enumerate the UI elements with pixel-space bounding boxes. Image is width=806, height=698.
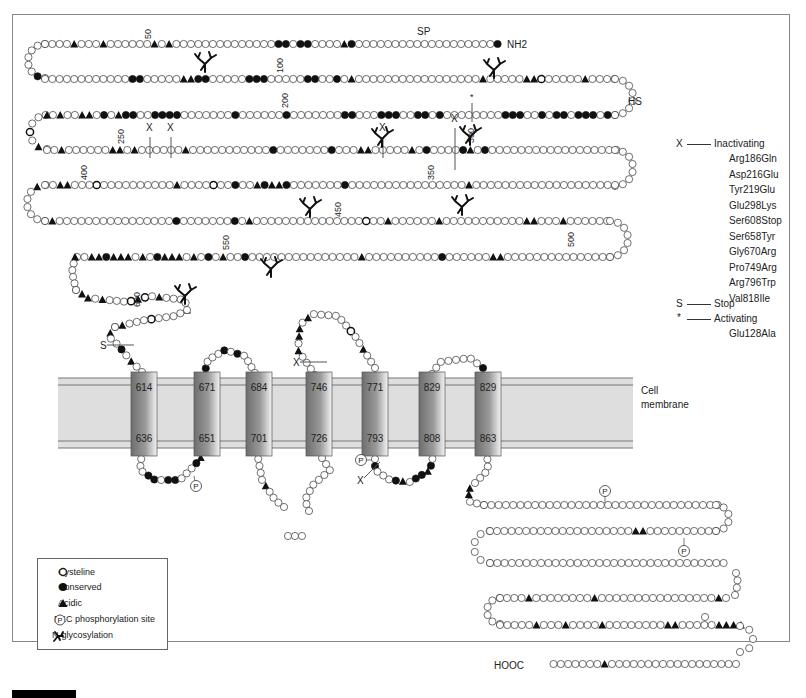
conserved-residue xyxy=(328,146,335,153)
inactivating-marker: X xyxy=(357,475,364,486)
residue xyxy=(501,217,508,224)
conserved-residue xyxy=(118,346,125,353)
conserved-residue xyxy=(241,253,248,260)
tm-helix-5: 771793 xyxy=(362,372,388,456)
residue xyxy=(621,621,628,628)
acidic-residue xyxy=(533,621,541,629)
residue xyxy=(319,40,326,47)
residue xyxy=(370,75,377,82)
residue xyxy=(326,75,333,82)
residue xyxy=(253,40,260,47)
svg-text:P: P xyxy=(57,616,62,625)
residue xyxy=(625,527,632,534)
residue xyxy=(392,75,399,82)
residue xyxy=(290,40,297,47)
residue xyxy=(312,217,319,224)
residue xyxy=(290,181,297,188)
acidic-residue xyxy=(295,332,303,340)
residue xyxy=(559,527,566,534)
svg-text:P: P xyxy=(358,456,363,465)
residue xyxy=(399,40,406,47)
conserved-residue xyxy=(439,253,446,260)
residue xyxy=(336,253,343,260)
residue xyxy=(356,181,363,188)
residue xyxy=(188,111,195,118)
cysteine-residue xyxy=(148,316,155,323)
residue xyxy=(318,311,325,318)
residue xyxy=(144,75,151,82)
residue xyxy=(443,40,450,47)
residue xyxy=(625,559,632,566)
residue xyxy=(63,40,70,47)
residue xyxy=(144,217,151,224)
acidic-residue xyxy=(182,146,190,154)
residue xyxy=(163,314,170,321)
residue xyxy=(41,181,48,188)
residue xyxy=(132,253,139,260)
residue xyxy=(333,217,340,224)
residue xyxy=(557,660,564,667)
residue-number: 350 xyxy=(426,165,436,180)
residue xyxy=(344,253,351,260)
residue xyxy=(474,146,481,153)
acidic-residue xyxy=(115,111,123,119)
residue xyxy=(81,253,88,260)
residue xyxy=(526,253,533,260)
residue xyxy=(310,481,317,488)
residue xyxy=(268,40,275,47)
residue xyxy=(561,501,568,508)
residue xyxy=(93,75,100,82)
residue xyxy=(451,181,458,188)
residue xyxy=(28,68,35,75)
residue xyxy=(310,311,317,318)
acidic-residue xyxy=(78,111,86,119)
residue xyxy=(625,153,632,160)
residue xyxy=(510,501,517,508)
residue xyxy=(107,75,114,82)
residue xyxy=(472,75,479,82)
residue xyxy=(452,356,459,363)
conserved-residue xyxy=(152,111,159,118)
residue xyxy=(49,40,56,47)
residue xyxy=(560,181,567,188)
residue xyxy=(524,181,531,188)
acidic-residue xyxy=(58,146,66,154)
acidic-residue xyxy=(525,594,533,602)
residue xyxy=(160,146,167,153)
residue xyxy=(385,40,392,47)
residue xyxy=(195,217,202,224)
residue xyxy=(304,217,311,224)
residue xyxy=(509,217,516,224)
residue xyxy=(703,660,710,667)
svg-text:P: P xyxy=(193,482,198,491)
residue xyxy=(392,217,399,224)
acidic-residue xyxy=(664,621,672,629)
residue xyxy=(444,111,451,118)
acidic-residue xyxy=(95,253,103,261)
residue xyxy=(85,75,92,82)
residue xyxy=(604,75,611,82)
residue xyxy=(234,253,241,260)
residue xyxy=(217,111,224,118)
cysteine-residue xyxy=(26,128,33,135)
acidic-residue xyxy=(84,294,92,302)
residue xyxy=(158,217,165,224)
residue xyxy=(399,75,406,82)
residue xyxy=(260,217,267,224)
acidic-residue xyxy=(340,40,348,48)
residue xyxy=(678,501,685,508)
residue xyxy=(684,559,691,566)
conserved-residue xyxy=(590,111,597,118)
filled-circle-icon xyxy=(58,582,68,592)
residue xyxy=(363,181,370,188)
residue xyxy=(209,217,216,224)
phosphorylation-site-icon: P xyxy=(191,481,202,492)
residue xyxy=(475,253,482,260)
residue xyxy=(589,75,596,82)
residue xyxy=(669,527,676,534)
legend-item-conserved: Conserved xyxy=(58,582,102,592)
residue xyxy=(538,559,545,566)
residue xyxy=(614,219,621,226)
residue xyxy=(597,181,604,188)
conserved-residue xyxy=(270,146,277,153)
